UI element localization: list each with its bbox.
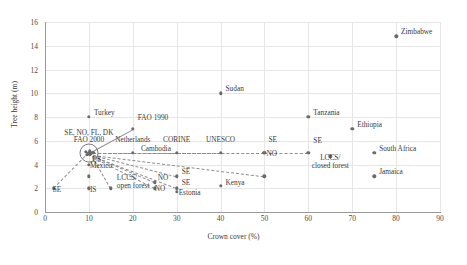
point-label: Estonia <box>179 189 201 197</box>
data-point[interactable] <box>372 175 375 178</box>
point-annotation: NO <box>266 150 277 158</box>
data-point[interactable] <box>87 115 90 118</box>
point-label: UNESCO <box>206 136 235 144</box>
point-annotation: FAO 1990 <box>138 114 168 122</box>
y-tick-label: 0 <box>0 208 38 217</box>
point-label: IS <box>90 186 97 194</box>
point-annotation: Turkey <box>94 109 115 117</box>
point-annotation: Jamaica <box>379 168 403 176</box>
point-annotation: NO <box>155 185 166 193</box>
gridline-horizontal <box>45 93 440 94</box>
point-annotation: SE <box>182 168 191 176</box>
data-point[interactable] <box>175 175 178 178</box>
cluster-label: SE, NO, FL, DKFAO 2000 <box>64 129 113 144</box>
y-tick-label: 14 <box>0 41 38 50</box>
point-annotation: South Africa <box>379 145 416 153</box>
data-point[interactable] <box>307 151 310 154</box>
point-annotation: Sudan <box>226 85 244 93</box>
y-tick-label: 4 <box>0 160 38 169</box>
gridline-horizontal <box>45 70 440 71</box>
data-point[interactable] <box>175 151 178 154</box>
x-tick-label: 10 <box>85 214 93 223</box>
data-point[interactable] <box>372 151 375 154</box>
x-tick-label: 20 <box>129 214 137 223</box>
point-sublabel: open forest <box>117 182 150 190</box>
point-label: Kenya <box>226 179 245 187</box>
point-annotation: NO <box>158 174 169 182</box>
point-annotation: LCCS/open forest <box>117 174 150 189</box>
data-point[interactable] <box>219 151 222 154</box>
y-tick-label: 12 <box>0 65 38 74</box>
point-annotation: Tanzania <box>313 109 339 117</box>
data-point[interactable] <box>394 35 397 38</box>
data-point[interactable] <box>307 115 310 118</box>
connector-line <box>93 153 264 154</box>
x-tick-label: 60 <box>305 214 313 223</box>
x-tick-label: 80 <box>392 214 400 223</box>
x-tick-label: 30 <box>173 214 181 223</box>
x-tick-label: 40 <box>217 214 225 223</box>
data-point[interactable] <box>263 175 266 178</box>
point-label: Ethiopia <box>357 121 382 129</box>
y-tick-label: 6 <box>0 136 38 145</box>
y-tick-label: 2 <box>0 184 38 193</box>
point-annotation: Netherlands <box>115 136 150 144</box>
point-label: Jamaica <box>379 168 403 176</box>
data-point[interactable] <box>109 187 112 190</box>
point-label: South Africa <box>379 145 416 153</box>
y-axis-title: Tree height (m) <box>10 65 19 145</box>
x-tick-label: 90 <box>436 214 444 223</box>
x-axis-line <box>45 212 441 213</box>
point-annotation: Kenya <box>226 179 245 187</box>
point-label: SE <box>313 137 322 145</box>
plot-area: SE, NO, FL, DKFAO 2000ZimbabweSudanTanza… <box>45 22 440 212</box>
scatter-chart: SE, NO, FL, DKFAO 2000ZimbabweSudanTanza… <box>0 0 467 265</box>
y-tick-label: 10 <box>0 89 38 98</box>
x-tick-label: 70 <box>348 214 356 223</box>
point-label: SE <box>182 168 191 176</box>
data-point[interactable] <box>219 184 222 187</box>
gridline-horizontal <box>45 117 440 118</box>
point-label: Tanzania <box>313 109 339 117</box>
point-annotation: Cambodia <box>141 145 171 153</box>
data-point[interactable] <box>131 127 134 130</box>
gridline-horizontal <box>45 188 440 189</box>
point-annotation: SE <box>53 186 62 194</box>
x-tick-label: 0 <box>43 214 47 223</box>
point-label: NO <box>155 185 166 193</box>
point-label: Zimbabwe <box>401 28 432 36</box>
point-label: NO <box>158 174 169 182</box>
point-annotation: CORINE <box>163 136 190 144</box>
point-label: SE <box>182 179 191 187</box>
x-axis-title: Crown cover (%) <box>0 232 467 241</box>
point-annotation: Estonia <box>179 189 201 197</box>
y-tick-label: 8 <box>0 113 38 122</box>
point-annotation: Zimbabwe <box>401 28 432 36</box>
y-axis-line <box>45 22 46 212</box>
data-point[interactable] <box>131 151 134 154</box>
point-annotation: SE <box>182 179 191 187</box>
point-annotation: UNESCO <box>206 136 235 144</box>
point-annotation: IS <box>90 186 97 194</box>
point-label: Netherlands <box>115 136 150 144</box>
cluster-label-line2: FAO 2000 <box>64 136 113 144</box>
point-annotation: SE <box>268 136 277 144</box>
point-label: FAO 1990 <box>138 114 168 122</box>
point-label: CORINE <box>163 136 190 144</box>
point-label: Sudan <box>226 85 244 93</box>
point-annotation: SE <box>313 137 322 145</box>
data-point[interactable] <box>87 175 90 178</box>
x-tick-label: 50 <box>261 214 269 223</box>
data-point[interactable] <box>351 127 354 130</box>
data-point[interactable] <box>219 92 222 95</box>
point-label: NO <box>266 150 277 158</box>
gridline-vertical <box>440 22 441 212</box>
point-sublabel: closed forest <box>312 162 349 170</box>
point-annotation: Ethiopia <box>357 121 382 129</box>
gridline-horizontal <box>45 46 440 47</box>
point-label: Cambodia <box>141 145 171 153</box>
point-annotation: LCCS/closed forest <box>312 154 349 169</box>
point-label: Mexico <box>90 162 112 170</box>
point-label: SE <box>268 136 277 144</box>
point-annotation: Mexico <box>90 162 112 170</box>
